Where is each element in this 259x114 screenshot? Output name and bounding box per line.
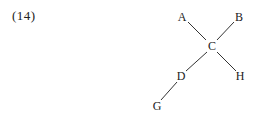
node-d: D <box>177 70 186 82</box>
edge-c-d <box>186 52 207 71</box>
edge-d-g <box>161 82 177 100</box>
node-a: A <box>178 11 187 23</box>
node-g: G <box>153 100 162 112</box>
tree-edges <box>0 0 259 114</box>
node-h: H <box>236 70 245 82</box>
edge-a-c <box>188 22 206 40</box>
edge-b-c <box>217 22 234 40</box>
node-b: B <box>235 11 243 23</box>
edge-c-h <box>217 52 236 71</box>
node-c: C <box>208 40 216 52</box>
